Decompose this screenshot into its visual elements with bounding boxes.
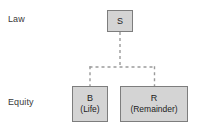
node-beneficiary-b[interactable]: B (Life) bbox=[72, 86, 108, 122]
diagram-canvas: Law Equity S B (Life) R (Remainder) bbox=[0, 0, 200, 129]
node-s-title: S bbox=[117, 16, 123, 27]
row-label-equity: Equity bbox=[8, 97, 34, 107]
node-remainder-r[interactable]: R (Remainder) bbox=[120, 86, 188, 122]
node-r-subtitle: (Remainder) bbox=[130, 104, 177, 115]
node-r-title: R bbox=[151, 93, 158, 104]
row-label-law: Law bbox=[8, 14, 25, 24]
node-b-subtitle: (Life) bbox=[80, 104, 99, 115]
node-settlor-s[interactable]: S bbox=[107, 10, 133, 32]
node-b-title: B bbox=[87, 93, 93, 104]
